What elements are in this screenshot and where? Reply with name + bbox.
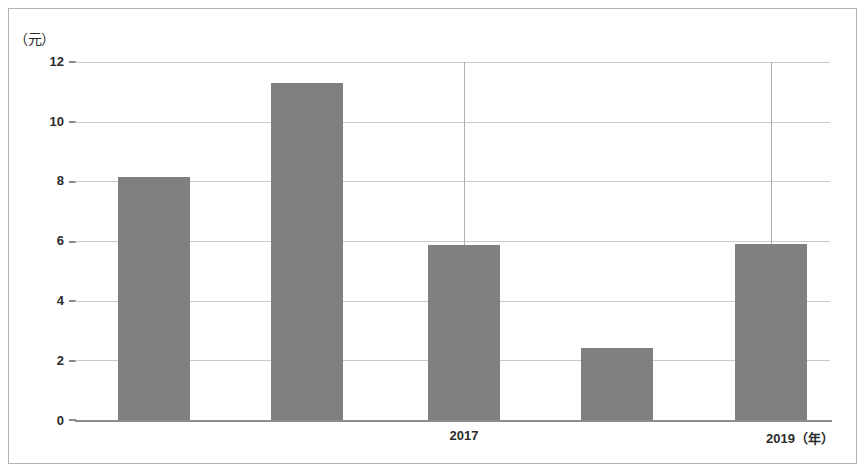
bar-2018 [581, 348, 653, 420]
y-tick-label: 6 [57, 234, 64, 247]
x-axis-line [75, 420, 832, 422]
gridline-horizontal-10 [75, 122, 830, 123]
gridline-horizontal-12 [75, 62, 830, 63]
y-tick-label: 8 [57, 174, 64, 187]
plot-area [75, 62, 830, 420]
x-tick-label-2019: 2019（年） [766, 428, 834, 447]
chart-screenshot: （元） 12 10 8 6 4 2 0 2017 2019（ [0, 0, 867, 475]
y-tick-label: 0 [57, 414, 64, 427]
y-tick-label: 4 [57, 294, 64, 307]
bar-2019 [735, 244, 807, 420]
y-tick-label: 10 [50, 115, 64, 128]
x-tick-label-2017: 2017 [450, 428, 479, 443]
bar-2016 [271, 83, 343, 420]
y-tick-label: 2 [57, 354, 64, 367]
y-tick-label: 12 [50, 55, 64, 68]
y-axis-tick-labels: 12 10 8 6 4 2 0 [18, 0, 64, 475]
bar-2015 [118, 177, 190, 420]
bar-2017 [428, 245, 500, 420]
